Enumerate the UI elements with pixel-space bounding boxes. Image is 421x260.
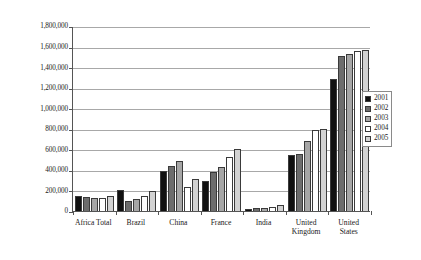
- bar-india-2002[interactable]: [253, 208, 260, 211]
- x-axis-tick: [158, 211, 159, 215]
- bar-group-bars: [243, 27, 286, 211]
- legend-swatch-icon: [365, 96, 371, 102]
- bar-africa-total-2005[interactable]: [107, 196, 114, 211]
- bar-france-2005[interactable]: [234, 149, 241, 211]
- x-axis-label-france: France: [200, 218, 243, 227]
- bar-united-kingdom-2004[interactable]: [312, 130, 319, 211]
- bar-group: [73, 27, 116, 211]
- bar-united-states-2003[interactable]: [346, 54, 353, 211]
- bar-group: [201, 27, 244, 211]
- bar-brazil-2003[interactable]: [133, 199, 140, 211]
- bar-france-2003[interactable]: [218, 167, 225, 211]
- legend-item-2004[interactable]: 2004: [365, 124, 388, 134]
- bar-china-2005[interactable]: [192, 179, 199, 211]
- x-axis-tick: [286, 211, 287, 215]
- x-axis-label-united-kingdom: United Kingdom: [285, 218, 328, 237]
- y-axis-tick-label: 200,000: [45, 188, 68, 195]
- bar-india-2004[interactable]: [269, 207, 276, 211]
- legend-swatch-icon: [365, 126, 371, 132]
- legend-swatch-icon: [365, 106, 371, 112]
- y-axis-tick-label: 0: [65, 208, 69, 215]
- legend-label: 2002: [374, 105, 388, 112]
- legend-item-2001[interactable]: 2001: [365, 94, 388, 104]
- bar-india-2005[interactable]: [277, 205, 284, 211]
- bar-africa-total-2002[interactable]: [83, 197, 90, 211]
- bar-china-2002[interactable]: [168, 166, 175, 211]
- bar-united-states-2004[interactable]: [354, 51, 361, 211]
- chart-legend: 20012002200320042005: [362, 91, 392, 147]
- bar-africa-total-2004[interactable]: [99, 198, 106, 211]
- bar-group: [286, 27, 329, 211]
- legend-label: 2005: [374, 135, 388, 142]
- y-axis-tick-label: 1,600,000: [40, 44, 68, 51]
- x-axis-tick: [73, 211, 74, 215]
- bar-france-2004[interactable]: [226, 157, 233, 211]
- bar-united-states-2001[interactable]: [330, 79, 337, 211]
- bar-group-bars: [158, 27, 201, 211]
- bar-chart: 1,800,0001,600,0001,400,0001,200,0001,00…: [0, 0, 421, 260]
- bar-united-kingdom-2005[interactable]: [320, 129, 327, 211]
- bar-united-states-2002[interactable]: [338, 56, 345, 211]
- plot-area: [72, 27, 370, 212]
- legend-label: 2001: [374, 95, 388, 102]
- x-axis-tick: [371, 211, 372, 215]
- bar-group: [158, 27, 201, 211]
- bar-brazil-2005[interactable]: [149, 191, 156, 211]
- y-axis-tick-label: 400,000: [45, 167, 68, 174]
- x-axis-tick: [243, 211, 244, 215]
- bar-africa-total-2003[interactable]: [91, 198, 98, 211]
- bar-china-2001[interactable]: [160, 171, 167, 211]
- x-axis-tick: [328, 211, 329, 215]
- x-axis-label-brazil: Brazil: [115, 218, 158, 227]
- y-axis-tick-label: 1,800,000: [40, 23, 68, 30]
- bar-brazil-2004[interactable]: [141, 196, 148, 211]
- legend-swatch-icon: [365, 116, 371, 122]
- bar-group-bars: [286, 27, 329, 211]
- legend-label: 2003: [374, 115, 388, 122]
- bar-china-2004[interactable]: [184, 187, 191, 211]
- y-axis-tick-label: 800,000: [45, 126, 68, 133]
- legend-item-2003[interactable]: 2003: [365, 114, 388, 124]
- legend-label: 2004: [374, 125, 388, 132]
- y-axis-tick-label: 1,000,000: [40, 106, 68, 113]
- x-axis-label-united-states: United States: [327, 218, 370, 237]
- bar-france-2001[interactable]: [202, 181, 209, 211]
- legend-swatch-icon: [365, 136, 371, 142]
- y-axis-tick-label: 1,200,000: [40, 85, 68, 92]
- bar-group: [243, 27, 286, 211]
- bar-brazil-2001[interactable]: [117, 190, 124, 211]
- bar-united-kingdom-2003[interactable]: [304, 141, 311, 211]
- x-axis-tick: [116, 211, 117, 215]
- legend-item-2002[interactable]: 2002: [365, 104, 388, 114]
- bar-india-2001[interactable]: [245, 209, 252, 211]
- bar-africa-total-2001[interactable]: [75, 196, 82, 211]
- y-axis-tick-label: 1,400,000: [40, 65, 68, 72]
- bar-india-2003[interactable]: [261, 208, 268, 211]
- x-axis-tick: [201, 211, 202, 215]
- y-axis-tick-label: 600,000: [45, 147, 68, 154]
- x-axis-label-africa-total: Africa Total: [72, 218, 115, 227]
- x-axis-label-china: China: [157, 218, 200, 227]
- bar-china-2003[interactable]: [176, 161, 183, 211]
- bar-group-bars: [73, 27, 116, 211]
- bar-united-kingdom-2002[interactable]: [296, 154, 303, 211]
- bar-united-kingdom-2001[interactable]: [288, 155, 295, 211]
- bar-france-2002[interactable]: [210, 172, 217, 211]
- bar-group-bars: [201, 27, 244, 211]
- bar-group: [116, 27, 159, 211]
- bar-group-bars: [116, 27, 159, 211]
- legend-item-2005[interactable]: 2005: [365, 134, 388, 144]
- bar-brazil-2002[interactable]: [125, 201, 132, 211]
- x-axis-label-india: India: [242, 218, 285, 227]
